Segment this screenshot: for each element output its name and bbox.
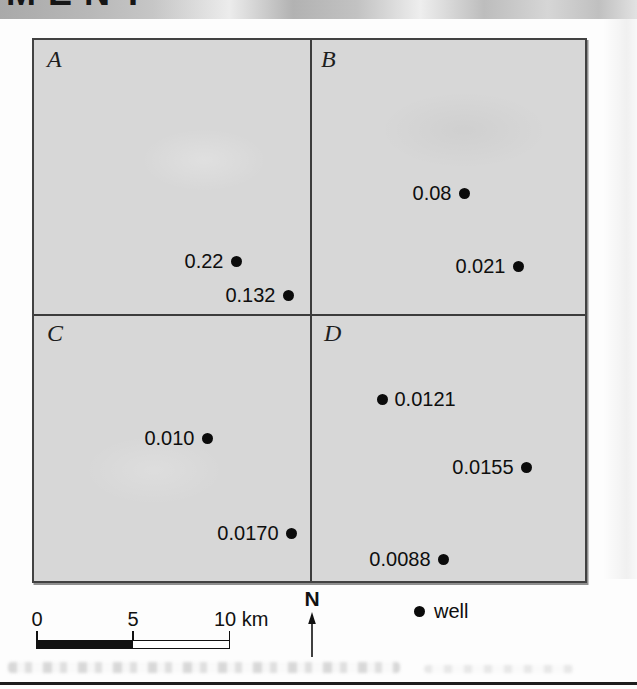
well-dot-icon: [438, 554, 449, 565]
scale-bar-filled-segment: [37, 641, 133, 648]
legend-well-label: well: [434, 600, 468, 622]
quadrant-divider-horizontal: [34, 314, 585, 316]
well-dot-icon: [414, 606, 425, 617]
well-marker: 0.132: [225, 284, 293, 306]
well-marker: 0.0088: [369, 548, 448, 570]
scale-bar-rule: [36, 640, 230, 649]
well-dot-icon: [377, 394, 388, 405]
well-value-label: 0.22: [185, 250, 224, 272]
well-dot-icon: [283, 290, 294, 301]
scale-label-0: 0: [30, 609, 44, 630]
quadrant-label-a: A: [47, 47, 62, 71]
well-marker: 0.0170: [217, 522, 296, 544]
quadrant-label-c: C: [47, 321, 63, 345]
well-value-label: 0.08: [413, 182, 452, 204]
well-dot-icon: [521, 462, 532, 473]
scale-label-10km: 10 km: [214, 609, 268, 630]
well-marker: 0.010: [144, 427, 212, 449]
well-value-label: 0.0088: [369, 548, 430, 570]
scan-bleedthrough: [424, 665, 574, 673]
quadrant-divider-vertical: [310, 40, 312, 581]
scan-header-band: MENT: [0, 0, 637, 19]
north-label: N: [298, 588, 326, 610]
north-arrow: N: [298, 588, 326, 658]
scale-label-5: 5: [126, 609, 140, 630]
well-dot-icon: [286, 528, 297, 539]
well-value-label: 0.010: [144, 427, 194, 449]
well-marker: 0.0155: [452, 456, 531, 478]
scanned-page: { "page": { "header_fragment": "MENT" },…: [0, 0, 637, 689]
north-arrow-icon: [304, 612, 320, 658]
quadrant-label-d: D: [324, 321, 341, 345]
page-edge-shading: [603, 19, 637, 579]
scale-tick: [132, 631, 134, 640]
cropped-header-text: MENT: [6, 0, 156, 11]
well-dot-icon: [513, 261, 524, 272]
well-dot-icon: [459, 188, 470, 199]
scan-bleedthrough: [8, 662, 400, 673]
well-marker: 0.021: [455, 255, 523, 277]
well-value-label: 0.0121: [395, 388, 456, 410]
page-bottom-rule: [0, 682, 637, 685]
scale-tick: [229, 631, 231, 640]
map-scale-bar: 0 5 10 km: [36, 609, 232, 651]
scale-tick: [36, 631, 38, 640]
well-marker: 0.22: [185, 250, 242, 272]
well-location-map: A B C D 0.22 0.132 0.08 0.021 0.010 0.01…: [32, 38, 587, 583]
quadrant-label-b: B: [321, 47, 336, 71]
well-value-label: 0.021: [455, 255, 505, 277]
well-value-label: 0.0170: [217, 522, 278, 544]
well-value-label: 0.0155: [452, 456, 513, 478]
well-marker: 0.0121: [377, 388, 456, 410]
well-dot-icon: [231, 256, 242, 267]
legend-well: well: [414, 600, 468, 622]
well-marker: 0.08: [413, 182, 470, 204]
well-dot-icon: [202, 433, 213, 444]
well-value-label: 0.132: [225, 284, 275, 306]
